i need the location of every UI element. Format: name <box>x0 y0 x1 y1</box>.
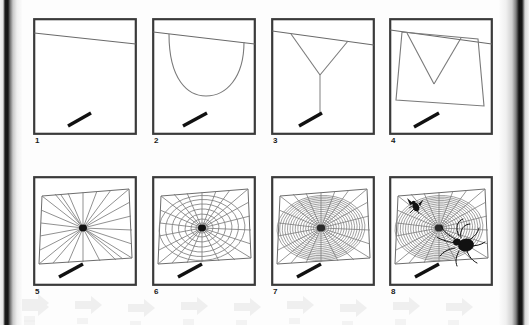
panel-frame <box>153 19 255 134</box>
hub <box>198 225 206 232</box>
hub <box>317 225 325 232</box>
panel-label: 7 <box>273 287 277 297</box>
panel-hanging-loop: 2 <box>152 18 256 135</box>
page-gutter-right <box>499 0 529 325</box>
panel-label: 8 <box>391 287 395 297</box>
hub <box>79 225 87 232</box>
panel-auxiliary-spiral: 6 <box>152 176 256 286</box>
scanned-page: 1 2 3 <box>0 0 529 325</box>
page-gutter-left <box>0 0 22 325</box>
panel-frame <box>272 19 374 134</box>
panel-outer-frame: 4 <box>389 18 493 135</box>
panel-label: 2 <box>154 136 158 146</box>
panel-capture-spiral: 7 <box>271 176 375 286</box>
panel-y-frame: 3 <box>271 18 375 135</box>
panel-label: 3 <box>273 136 277 146</box>
figure-sheet: 1 2 3 <box>22 0 499 325</box>
panel-radii: 5 <box>33 176 137 286</box>
panel-bridge-thread: 1 <box>33 18 137 135</box>
panel-frame <box>390 19 492 134</box>
panel-label: 4 <box>391 136 395 146</box>
panel-label: 6 <box>154 287 158 297</box>
panel-label: 1 <box>35 136 39 146</box>
panel-label: 5 <box>35 287 39 297</box>
panel-spider-and-prey: 8 <box>389 176 493 286</box>
